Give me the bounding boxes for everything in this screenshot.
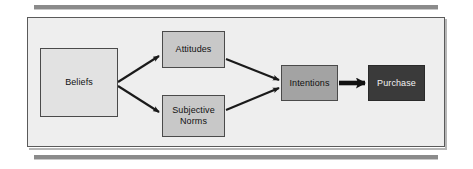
node-intentions-label: Intentions — [289, 78, 329, 89]
node-attitudes[interactable]: Attitudes — [162, 31, 225, 68]
diagram-screenshot: Beliefs Attitudes Subjective Norms Inten… — [0, 0, 473, 169]
node-purchase[interactable]: Purchase — [368, 65, 425, 101]
node-subjective-norms-label-line1: Subjective — [172, 105, 215, 115]
bottom-rule-highlight — [34, 159, 438, 160]
panel-right-shadow — [445, 19, 447, 150]
node-subjective-norms-label: Subjective Norms — [172, 105, 215, 127]
top-rule-highlight — [34, 9, 438, 10]
node-intentions[interactable]: Intentions — [281, 65, 338, 101]
node-beliefs[interactable]: Beliefs — [40, 48, 118, 117]
panel-bottom-shadow — [29, 148, 447, 150]
node-purchase-label: Purchase — [377, 78, 416, 89]
node-subjective-norms[interactable]: Subjective Norms — [162, 95, 225, 137]
node-attitudes-label: Attitudes — [176, 44, 212, 55]
node-subjective-norms-label-line2: Norms — [180, 116, 207, 126]
node-beliefs-label: Beliefs — [65, 77, 93, 88]
